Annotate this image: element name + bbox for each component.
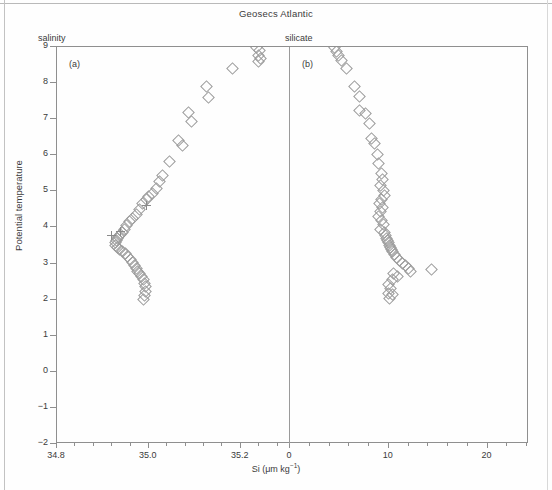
x-tick-label: 0 [269,450,309,460]
y-tick-label: 4 [22,220,48,230]
panel-a-salinity: (a) [57,47,289,444]
data-point-diamond [226,63,239,76]
x-axis-label-prefix: Si (μm kg [252,464,290,474]
data-point-plus [117,228,124,235]
y-axis-label: Potential temperature [13,106,24,306]
x-tick-label: 35.0 [128,450,168,460]
figure-title: Geosecs Atlantic [0,8,552,19]
data-point-plus [143,202,150,209]
x-tick-label: 34.8 [36,450,76,460]
data-point-diamond [202,91,215,104]
y-tick-label: 1 [22,329,48,339]
y-tick-label: 2 [22,293,48,303]
x-tick-label: 35.2 [220,450,260,460]
panel-b-axis-header: silicate [285,33,313,43]
y-tick-label: 3 [22,257,48,267]
y-tick-label: 9 [22,40,48,50]
panel-b-silicate: (b) [290,47,528,444]
panel-a-tag: (a) [69,59,80,69]
y-tick-label: 8 [22,76,48,86]
x-axis-label: Si (μm kg−1) [0,462,552,474]
data-point-diamond [163,155,176,168]
panel-b-tag: (b) [302,59,313,69]
figure-page: Geosecs Atlantic salinity silicate Poten… [0,0,552,490]
y-tick-label: −2 [22,437,48,447]
plot-frame: (a) (b) [56,46,528,443]
x-tick-label: 20 [467,450,507,460]
y-tick-label: 5 [22,184,48,194]
x-tick-label: 10 [368,450,408,460]
y-tick-label: −1 [22,401,48,411]
scan-edge-right [547,0,548,490]
data-point-diamond [425,263,438,276]
data-point-plus [108,232,115,239]
y-tick-label: 6 [22,148,48,158]
x-axis-label-suffix: ) [297,464,300,474]
y-tick-label: 7 [22,112,48,122]
y-tick-label: 0 [22,365,48,375]
scan-edge-top [0,3,552,4]
scan-edge-left [4,0,5,490]
